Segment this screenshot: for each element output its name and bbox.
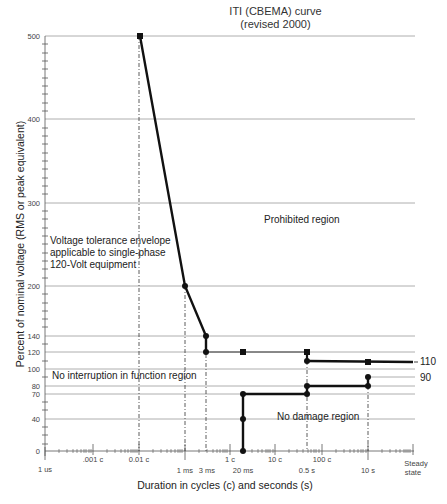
svg-text:Steady: Steady bbox=[404, 459, 428, 468]
svg-text:140: 140 bbox=[27, 332, 40, 341]
svg-text:.001 c: .001 c bbox=[83, 455, 104, 464]
label-110: 110 bbox=[420, 356, 436, 367]
prohibited-region-label: Prohibited region bbox=[264, 214, 340, 225]
svg-text:500: 500 bbox=[27, 32, 40, 41]
svg-text:400: 400 bbox=[27, 115, 40, 124]
y-tick-labels: 500 400 300 200 140 120 100 80 70 40 0 bbox=[27, 32, 40, 456]
svg-text:300: 300 bbox=[27, 199, 40, 208]
reference-dashed-lines bbox=[139, 36, 368, 451]
svg-text:1 c: 1 c bbox=[225, 455, 235, 464]
envelope-label-line3: 120-Volt equipment bbox=[50, 259, 136, 270]
svg-text:10 c: 10 c bbox=[268, 455, 282, 464]
iti-cbema-chart: 500 400 300 200 140 120 100 80 70 40 0 .… bbox=[0, 0, 447, 504]
envelope-label-line1: Voltage tolerance envelope bbox=[50, 235, 171, 246]
svg-text:3 ms: 3 ms bbox=[199, 466, 216, 475]
svg-text:40: 40 bbox=[32, 415, 40, 424]
no-damage-region-label: No damage region bbox=[277, 411, 359, 422]
y-axis bbox=[42, 36, 48, 456]
svg-text:20 ms: 20 ms bbox=[233, 466, 254, 475]
svg-text:1 us: 1 us bbox=[38, 465, 52, 474]
svg-text:100: 100 bbox=[27, 365, 40, 374]
svg-text:0.5 s: 0.5 s bbox=[299, 466, 316, 475]
svg-text:0.01 c: 0.01 c bbox=[129, 455, 150, 464]
no-interruption-region-label: No interruption in function region bbox=[52, 370, 197, 381]
svg-text:10 s: 10 s bbox=[361, 466, 375, 475]
svg-text:100 c: 100 c bbox=[313, 455, 332, 464]
svg-text:1 ms: 1 ms bbox=[177, 466, 194, 475]
svg-text:70: 70 bbox=[32, 390, 40, 399]
svg-text:120: 120 bbox=[27, 348, 40, 357]
svg-text:200: 200 bbox=[27, 282, 40, 291]
envelope-label-line2: applicable to single-phase bbox=[50, 247, 166, 258]
svg-text:0: 0 bbox=[36, 447, 40, 456]
x-tick-labels: .001 c 0.01 c 1 c 10 c 100 c 1 us 1 ms 3… bbox=[38, 455, 428, 477]
x-axis-title: Duration in cycles (c) and seconds (s) bbox=[137, 479, 313, 491]
label-90: 90 bbox=[420, 372, 432, 383]
y-axis-title: Percent of nominal voltage (RMS or peak … bbox=[14, 121, 26, 367]
svg-text:state: state bbox=[405, 468, 421, 477]
upper-curve bbox=[137, 33, 418, 365]
